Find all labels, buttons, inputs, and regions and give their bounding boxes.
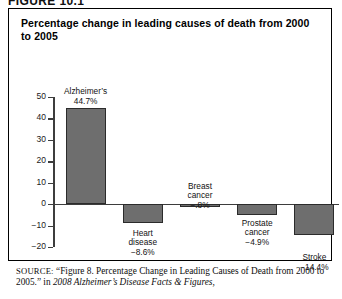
bar [123, 204, 163, 222]
source-line1: “Figure 8. Percentage Change in Leading … [54, 266, 294, 276]
bar-label-line: −.8% [165, 201, 235, 211]
y-axis-tick-label: −20 [32, 241, 46, 251]
figure-container: Percentage change in leading causes of d… [8, 8, 332, 261]
figure-number-label: FIGURE 10.1 [8, 0, 84, 8]
y-axis-tick-label: 20 [37, 155, 46, 165]
bar-label: Alzheimer’s44.7% [51, 87, 121, 106]
y-axis-line [53, 97, 55, 247]
y-axis-tick-mark [48, 247, 53, 248]
y-axis-tick-mark [48, 118, 53, 119]
bar-label-line: −8.6% [108, 248, 178, 258]
y-axis-tick: 50 [19, 97, 53, 98]
y-axis-tick-label: 50 [37, 91, 46, 101]
y-axis-tick-label: 40 [37, 112, 46, 122]
y-axis-tick-label: 10 [37, 177, 46, 187]
chart-title: Percentage change in leading causes of d… [21, 17, 311, 43]
bar-label: Heartdisease−8.6% [108, 229, 178, 258]
bar [294, 204, 334, 235]
y-axis-tick: 20 [19, 161, 53, 162]
y-axis-tick-mark [48, 204, 53, 205]
y-axis-tick-mark [48, 161, 53, 162]
source-keyword: SOURCE: [16, 266, 54, 276]
y-axis-tick-mark [48, 226, 53, 227]
y-axis-tick: −20 [19, 247, 53, 248]
source-publication-title: 2008 Alzheimer’s Disease Facts & Figures… [53, 277, 215, 287]
y-axis-tick: −10 [19, 226, 53, 227]
y-axis-tick-label: 0 [41, 198, 46, 208]
bar-chart-plot-area: 50403020100−10−20 Alzheimer’s44.7%Heartd… [53, 97, 339, 247]
bar-label-line: 44.7% [51, 97, 121, 107]
y-axis-tick-mark [48, 183, 53, 184]
bar [237, 204, 277, 215]
y-axis-tick: 10 [19, 183, 53, 184]
y-axis-tick-mark [48, 140, 53, 141]
y-axis-tick-label: 30 [37, 134, 46, 144]
y-axis-tick: 40 [19, 118, 53, 119]
y-axis-tick-label: −10 [32, 220, 46, 230]
bar [66, 108, 106, 204]
bar-label: Breastcancer−.8% [165, 182, 235, 211]
y-axis-tick: 30 [19, 140, 53, 141]
bar-label: Prostatecancer−4.9% [222, 219, 292, 248]
bar-label-line: −4.9% [222, 238, 292, 248]
source-caption: SOURCE: “Figure 8. Percentage Change in … [16, 266, 328, 289]
y-axis-tick: 0 [19, 204, 53, 205]
